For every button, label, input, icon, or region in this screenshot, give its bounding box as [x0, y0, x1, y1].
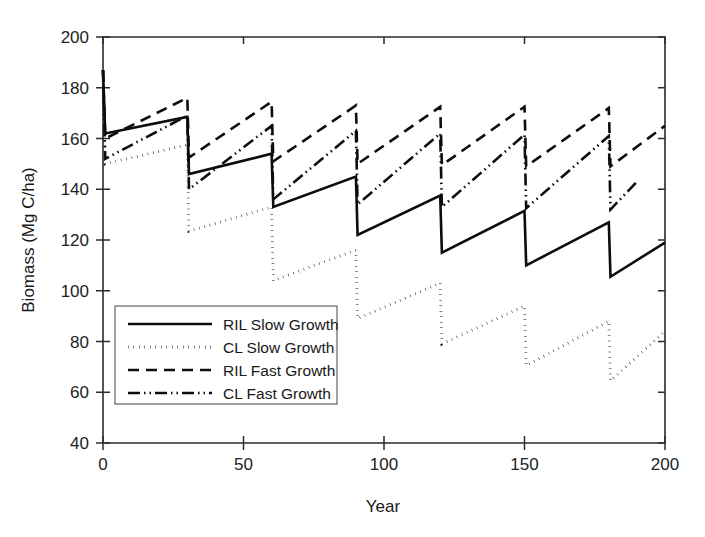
y-tick-label: 200 — [61, 28, 89, 47]
y-tick-label: 100 — [61, 282, 89, 301]
x-tick-label: 150 — [510, 455, 538, 474]
legend-label: RIL Slow Growth — [223, 316, 339, 333]
y-axis-title: Biomass (Mg C/ha) — [19, 167, 38, 312]
y-tick-label: 120 — [61, 231, 89, 250]
y-tick-label: 180 — [61, 79, 89, 98]
y-tick-label: 160 — [61, 130, 89, 149]
x-tick-label: 200 — [651, 455, 679, 474]
chart-canvas: 406080100120140160180200 050100150200 Ye… — [0, 0, 705, 537]
legend-label: CL Fast Growth — [223, 385, 331, 402]
biomass-harvest-cycle-chart: 406080100120140160180200 050100150200 Ye… — [0, 0, 705, 537]
y-tick-label: 140 — [61, 180, 89, 199]
y-tick-label: 40 — [70, 434, 89, 453]
x-tick-label: 0 — [98, 455, 107, 474]
legend-label: RIL Fast Growth — [223, 362, 335, 379]
x-tick-label: 50 — [234, 455, 253, 474]
x-tick-label: 100 — [370, 455, 398, 474]
x-axis-title: Year — [366, 497, 401, 516]
legend-label: CL Slow Growth — [223, 339, 334, 356]
y-tick-label: 80 — [70, 333, 89, 352]
chart-legend: RIL Slow GrowthCL Slow GrowthRIL Fast Gr… — [115, 306, 339, 404]
y-tick-label: 60 — [70, 383, 89, 402]
